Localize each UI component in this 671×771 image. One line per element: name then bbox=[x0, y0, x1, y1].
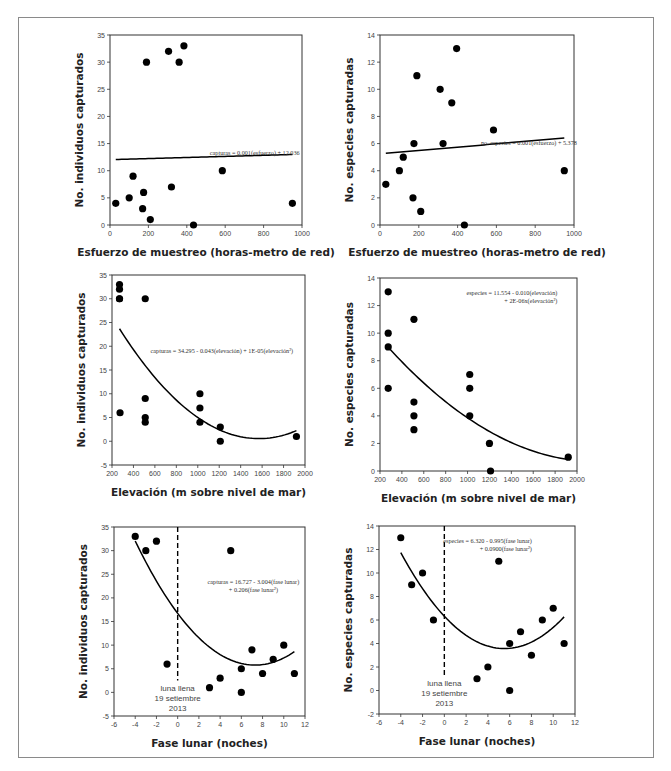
regression-equation: especies = 11.554 - 0.010(elevación) bbox=[466, 289, 557, 297]
data-point bbox=[259, 670, 266, 677]
x-axis-label: Esfuerzo de muestreo (horas-metro de red… bbox=[348, 246, 605, 258]
data-point bbox=[517, 628, 524, 635]
y-tick-label: -5 bbox=[101, 462, 107, 469]
data-point bbox=[142, 395, 149, 402]
data-point bbox=[147, 216, 154, 223]
data-point bbox=[410, 140, 417, 147]
data-point bbox=[484, 663, 491, 670]
data-point bbox=[419, 569, 426, 576]
x-tick-label: 0 bbox=[378, 230, 382, 237]
data-point bbox=[439, 140, 446, 147]
x-tick-label: 1800 bbox=[547, 476, 563, 483]
y-tick-label: 20 bbox=[99, 343, 107, 350]
data-point bbox=[486, 440, 493, 447]
data-point bbox=[410, 412, 417, 419]
x-tick-label: 1000 bbox=[566, 230, 582, 237]
y-tick-label: 14 bbox=[367, 275, 375, 282]
data-point bbox=[396, 167, 403, 174]
data-point bbox=[385, 343, 392, 350]
y-tick-label: 10 bbox=[367, 330, 375, 337]
data-point bbox=[248, 646, 255, 653]
data-point bbox=[417, 208, 424, 215]
x-tick-label: 200 bbox=[413, 230, 425, 237]
y-tick-label: 30 bbox=[101, 547, 109, 554]
y-tick-label: 4 bbox=[371, 167, 375, 174]
y-tick-label: 0 bbox=[371, 468, 375, 475]
x-tick-label: 0 bbox=[108, 230, 112, 237]
x-tick-label: 2000 bbox=[569, 476, 585, 483]
data-point bbox=[112, 200, 119, 207]
x-tick-label: 800 bbox=[529, 230, 541, 237]
y-tick-label: 35 bbox=[97, 32, 105, 39]
y-tick-label: 8 bbox=[371, 113, 375, 120]
plot-area bbox=[380, 35, 574, 225]
y-tick-label: 20 bbox=[101, 594, 109, 601]
data-point bbox=[453, 45, 460, 52]
data-point bbox=[397, 534, 404, 541]
data-point bbox=[466, 385, 473, 392]
data-point bbox=[487, 467, 494, 474]
data-point bbox=[217, 423, 224, 430]
y-tick-label: 8 bbox=[371, 357, 375, 364]
full-moon-annotation: 19 setiembre bbox=[155, 694, 202, 703]
data-point bbox=[142, 295, 149, 302]
x-tick-label: 800 bbox=[170, 470, 182, 477]
y-axis-label: No. individuos capturados bbox=[75, 293, 87, 448]
y-tick-label: 12 bbox=[367, 59, 375, 66]
x-tick-label: 4 bbox=[218, 721, 222, 728]
x-axis-label: Elevación (m sobre nivel de mar) bbox=[381, 492, 576, 504]
x-tick-label: 600 bbox=[491, 230, 503, 237]
data-point bbox=[382, 181, 389, 188]
data-point bbox=[293, 433, 300, 440]
data-point bbox=[196, 390, 203, 397]
regression-equation: no. especies = 0.001(esfuerzo) + 5.378 bbox=[481, 139, 577, 147]
regression-equation: + 0.206(fase lunar²) bbox=[229, 586, 278, 594]
data-point bbox=[163, 660, 170, 667]
x-tick-label: 600 bbox=[149, 470, 161, 477]
data-point bbox=[413, 72, 420, 79]
y-axis-label: No. especies capturadas bbox=[342, 548, 354, 693]
x-tick-label: -4 bbox=[398, 719, 404, 726]
data-point bbox=[565, 454, 572, 461]
data-point bbox=[506, 687, 513, 694]
data-point bbox=[506, 640, 513, 647]
x-tick-label: 200 bbox=[143, 230, 155, 237]
regression-equation: capturas = 34.295 - 0.043(elevación) + 1… bbox=[151, 347, 294, 355]
data-point bbox=[176, 59, 183, 66]
data-point bbox=[132, 533, 139, 540]
chart-panel-p4: 2004006008001000120014001600180020000246… bbox=[343, 275, 585, 505]
data-point bbox=[140, 189, 147, 196]
x-tick-label: 600 bbox=[418, 476, 430, 483]
x-tick-label: 10 bbox=[280, 721, 288, 728]
x-tick-label: 1800 bbox=[276, 470, 292, 477]
data-point bbox=[238, 689, 245, 696]
data-point bbox=[385, 330, 392, 337]
x-tick-label: 8 bbox=[261, 721, 265, 728]
x-tick-label: 2000 bbox=[297, 470, 313, 477]
x-tick-label: -2 bbox=[153, 721, 159, 728]
data-point bbox=[165, 48, 172, 55]
x-tick-label: 200 bbox=[374, 476, 386, 483]
data-point bbox=[448, 99, 455, 106]
y-tick-label: 14 bbox=[367, 32, 375, 39]
full-moon-annotation: luna llena bbox=[427, 679, 462, 688]
y-tick-label: 10 bbox=[99, 390, 107, 397]
data-point bbox=[238, 665, 245, 672]
x-tick-label: 2 bbox=[197, 721, 201, 728]
data-point bbox=[410, 316, 417, 323]
full-moon-annotation: 19 setiembre bbox=[421, 689, 468, 698]
chart-panel-p2: 0200400600800100002468101214Esfuerzo de … bbox=[343, 32, 606, 259]
data-point bbox=[400, 154, 407, 161]
chart-panel-p5: -6-4-2024681012-505101520253035Fase luna… bbox=[77, 524, 309, 750]
full-moon-annotation: 2013 bbox=[435, 699, 453, 708]
data-point bbox=[550, 605, 557, 612]
y-tick-label: 0 bbox=[101, 222, 105, 229]
data-point bbox=[153, 538, 160, 545]
data-point bbox=[206, 684, 213, 691]
y-tick-label: 2 bbox=[371, 440, 375, 447]
x-axis-label: Esfuerzo de muestreo (horas-metro de red… bbox=[77, 246, 334, 258]
x-tick-label: 200 bbox=[106, 470, 118, 477]
y-tick-label: 30 bbox=[99, 295, 107, 302]
x-tick-label: 1000 bbox=[460, 476, 476, 483]
data-point bbox=[466, 371, 473, 378]
